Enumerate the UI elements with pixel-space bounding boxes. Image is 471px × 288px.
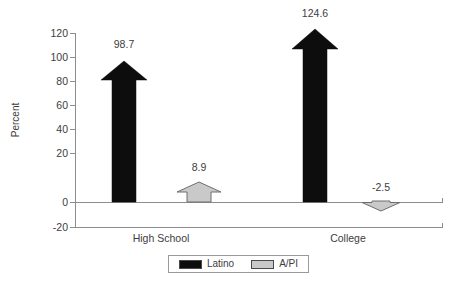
bar-api-college[interactable] <box>362 201 400 211</box>
value-label-latino-high-school: 98.7 <box>89 39 159 50</box>
y-tick-label-120: 120 <box>38 28 68 39</box>
legend-label-api: A/PI <box>279 259 298 269</box>
legend-item-api[interactable]: A/PI <box>251 259 298 269</box>
legend-item-latino[interactable]: Latino <box>179 259 234 269</box>
y-tick-label-60: 60 <box>38 100 68 111</box>
y-tick-label-20: 20 <box>38 148 68 159</box>
bar-api-high-school[interactable] <box>177 182 221 202</box>
chart-legend: Latino A/PI <box>168 255 309 273</box>
legend-swatch-latino-icon <box>179 260 202 269</box>
chart-plot-area <box>0 0 471 288</box>
x-category-label-college: College <box>288 232 408 244</box>
bar-latino-college[interactable] <box>292 29 338 202</box>
y-tick-label-neg20: -20 <box>38 222 68 233</box>
x-category-label-high-school: High School <box>101 232 221 244</box>
legend-label-latino: Latino <box>207 259 234 269</box>
legend-swatch-api-icon <box>251 260 274 269</box>
y-axis-ticks <box>70 34 76 228</box>
y-axis-tick-labels: 120 100 80 60 40 20 0 -20 <box>30 0 68 288</box>
y-axis-title: Percent <box>11 92 21 148</box>
bar-latino-high-school[interactable] <box>101 61 147 202</box>
y-tick-label-80: 80 <box>38 76 68 87</box>
chart-container: 120 100 80 60 40 20 0 -20 Percent 98.7 8… <box>0 0 471 288</box>
y-tick-label-40: 40 <box>38 124 68 135</box>
y-tick-label-100: 100 <box>38 52 68 63</box>
value-label-api-high-school: 8.9 <box>164 162 234 173</box>
y-tick-label-0: 0 <box>38 197 68 208</box>
value-label-latino-college: 124.6 <box>280 8 350 19</box>
value-label-api-college: -2.5 <box>346 182 416 193</box>
